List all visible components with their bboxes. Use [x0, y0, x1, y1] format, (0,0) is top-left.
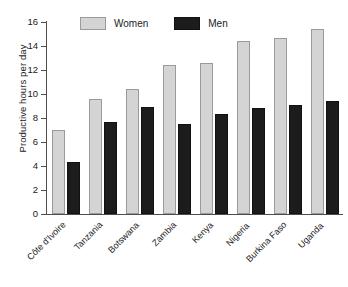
y-axis-tick-label: 12 — [8, 65, 38, 75]
x-axis-label-4: Kenya — [190, 220, 215, 245]
bar-group — [237, 22, 265, 214]
x-axis-label-7: Uganda — [296, 220, 325, 249]
bar-group — [200, 22, 228, 214]
y-axis-tick — [41, 214, 46, 215]
bar-women-3[interactable] — [163, 65, 176, 214]
bar-women-4[interactable] — [200, 63, 213, 214]
bar-men-0[interactable] — [67, 162, 80, 214]
bar-women-1[interactable] — [89, 99, 102, 214]
bar-men-5[interactable] — [252, 108, 265, 214]
bar-men-7[interactable] — [326, 101, 339, 214]
y-axis-tick-label: 16 — [8, 17, 38, 27]
y-axis-tick — [41, 94, 46, 95]
bar-group — [126, 22, 154, 214]
legend-label-men: Men — [208, 18, 227, 29]
y-axis-tick-label: 8 — [8, 113, 38, 123]
legend-label-women: Women — [114, 18, 148, 29]
y-axis-tick-label: 6 — [8, 137, 38, 147]
y-axis-tick — [41, 142, 46, 143]
bar-women-7[interactable] — [311, 29, 324, 214]
y-axis-tick — [41, 190, 46, 191]
x-axis-label-0: Côte d'Ivoire — [25, 220, 68, 263]
y-axis-tick — [41, 22, 46, 23]
legend-item-women[interactable]: Women — [80, 17, 148, 30]
y-axis-tick — [41, 46, 46, 47]
bar-group — [311, 22, 339, 214]
bar-women-2[interactable] — [126, 89, 139, 214]
bar-group — [274, 22, 302, 214]
bar-men-3[interactable] — [178, 124, 191, 214]
y-axis-tick-label: 4 — [8, 161, 38, 171]
bar-women-5[interactable] — [237, 41, 250, 214]
y-axis-tick-label: 0 — [8, 209, 38, 219]
bar-women-6[interactable] — [274, 38, 287, 214]
y-axis-tick — [41, 166, 46, 167]
bar-group — [89, 22, 117, 214]
x-axis-label-5: Nigeria — [224, 220, 251, 247]
chart-legend: Women Men — [80, 17, 228, 30]
y-axis-tick-label: 14 — [8, 41, 38, 51]
bar-group — [163, 22, 191, 214]
x-axis-label-1: Tanzania — [72, 220, 105, 253]
x-axis-label-3: Zambia — [150, 220, 178, 248]
y-axis-title: Productive hours per day — [17, 14, 28, 184]
x-axis-label-2: Botswana — [106, 220, 141, 255]
bar-men-1[interactable] — [104, 122, 117, 214]
y-axis-tick-label: 10 — [8, 89, 38, 99]
y-axis-tick — [41, 70, 46, 71]
men-swatch-icon — [174, 17, 200, 30]
women-swatch-icon — [80, 17, 106, 30]
y-axis-tick — [41, 118, 46, 119]
bar-men-4[interactable] — [215, 114, 228, 214]
plot-area — [47, 22, 342, 214]
bar-group — [52, 22, 80, 214]
y-axis-tick-label: 2 — [8, 185, 38, 195]
bar-men-2[interactable] — [141, 107, 154, 214]
x-axis-line — [46, 214, 343, 215]
bar-women-0[interactable] — [52, 130, 65, 214]
bar-chart: Productive hours per day 0246810121416 C… — [0, 0, 348, 287]
legend-item-men[interactable]: Men — [174, 17, 227, 30]
bar-men-6[interactable] — [289, 105, 302, 214]
